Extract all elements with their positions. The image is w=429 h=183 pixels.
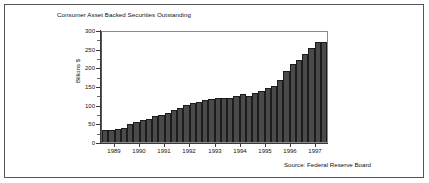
y-tick-mark-minor bbox=[97, 134, 100, 135]
x-tick-label: 1993 bbox=[208, 148, 221, 154]
y-tick-label: 100 bbox=[85, 103, 95, 109]
chart-title: Consumer Asset Backed Securities Outstan… bbox=[57, 11, 191, 18]
x-tick-label: 1995 bbox=[258, 148, 271, 154]
x-tick-mark bbox=[164, 144, 165, 147]
plot-area bbox=[101, 31, 328, 143]
y-tick-mark-minor bbox=[97, 40, 100, 41]
y-tick-label: 300 bbox=[85, 28, 95, 34]
y-tick-mark-minor bbox=[97, 115, 100, 116]
x-tick-label: 1997 bbox=[308, 148, 321, 154]
x-tick-label: 1996 bbox=[283, 148, 296, 154]
y-tick-mark-minor bbox=[97, 96, 100, 97]
y-tick-mark bbox=[96, 143, 100, 144]
y-tick-label: 0 bbox=[92, 140, 95, 146]
x-tick-mark bbox=[315, 144, 316, 147]
y-axis-title: Billions $ bbox=[75, 51, 81, 91]
x-tick-mark bbox=[215, 144, 216, 147]
x-tick-mark bbox=[240, 144, 241, 147]
x-tick-label: 1992 bbox=[182, 148, 195, 154]
y-tick-mark bbox=[96, 50, 100, 51]
x-tick-label: 1990 bbox=[132, 148, 145, 154]
y-tick-mark bbox=[96, 124, 100, 125]
y-tick-label: 250 bbox=[85, 47, 95, 53]
x-tick-label: 1994 bbox=[233, 148, 246, 154]
x-tick-mark bbox=[114, 144, 115, 147]
x-axis-line bbox=[100, 143, 328, 144]
x-tick-mark bbox=[189, 144, 190, 147]
chart-figure: Consumer Asset Backed Securities Outstan… bbox=[0, 0, 429, 183]
y-tick-mark-minor bbox=[97, 78, 100, 79]
x-tick-label: 1989 bbox=[107, 148, 120, 154]
y-tick-label: 50 bbox=[88, 121, 95, 127]
x-tick-mark bbox=[290, 144, 291, 147]
x-tick-mark bbox=[265, 144, 266, 147]
x-tick-mark bbox=[139, 144, 140, 147]
y-tick-mark bbox=[96, 31, 100, 32]
y-tick-label: 200 bbox=[85, 65, 95, 71]
y-tick-mark bbox=[96, 106, 100, 107]
y-tick-mark bbox=[96, 87, 100, 88]
y-tick-mark-minor bbox=[97, 59, 100, 60]
y-tick-mark bbox=[96, 68, 100, 69]
bar-series bbox=[102, 32, 327, 142]
y-tick-label: 150 bbox=[85, 84, 95, 90]
bar bbox=[321, 42, 327, 142]
x-tick-label: 1991 bbox=[157, 148, 170, 154]
source-note: Source: Federal Reserve Board bbox=[284, 161, 371, 168]
